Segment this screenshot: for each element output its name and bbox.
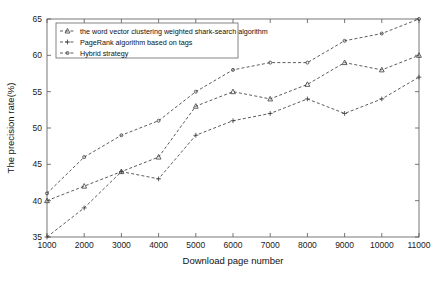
data-point-plus bbox=[417, 75, 422, 80]
x-tick-label: 5000 bbox=[186, 240, 205, 250]
x-tick-label: 11000 bbox=[407, 240, 430, 250]
data-point-dot bbox=[306, 61, 309, 64]
x-tick-label: 3000 bbox=[112, 240, 131, 250]
x-tick-label: 4000 bbox=[149, 240, 168, 250]
series-1 bbox=[45, 53, 422, 203]
x-tick-label: 8000 bbox=[298, 240, 317, 250]
data-point-plus bbox=[379, 97, 384, 102]
data-point-plus bbox=[305, 97, 310, 102]
x-tick-label: 10000 bbox=[370, 240, 394, 250]
data-point-dot bbox=[83, 156, 86, 159]
y-tick-label: 65 bbox=[33, 14, 43, 24]
x-tick-label: 6000 bbox=[224, 240, 243, 250]
data-point-triangle bbox=[305, 82, 310, 87]
legend-label: the word vector clustering weighted shar… bbox=[80, 27, 268, 36]
x-tick-label: 1000 bbox=[38, 240, 57, 250]
data-point-plus bbox=[156, 176, 161, 181]
series-path bbox=[47, 77, 419, 237]
y-tick-label: 50 bbox=[33, 123, 43, 133]
data-point-plus bbox=[193, 133, 198, 138]
chart-legend[interactable]: the word vector clustering weighted shar… bbox=[56, 23, 268, 58]
legend-entry-2[interactable]: PageRank algorithm based on tags bbox=[60, 38, 193, 47]
y-tick-label: 40 bbox=[33, 196, 43, 206]
series-path bbox=[47, 55, 419, 200]
x-tick-label: 7000 bbox=[261, 240, 280, 250]
x-tick-label: 9000 bbox=[335, 240, 354, 250]
x-axis-title: Download page number bbox=[183, 255, 284, 266]
y-axis-title: The precision rate(%) bbox=[5, 83, 16, 174]
plot-area: 3540455055606510002000300040005000600070… bbox=[0, 0, 433, 284]
legend-entry-1[interactable]: the word vector clustering weighted shar… bbox=[60, 27, 268, 36]
data-point-triangle bbox=[231, 89, 236, 94]
data-point-dot bbox=[157, 119, 160, 122]
series-2 bbox=[45, 75, 422, 240]
y-tick-label: 60 bbox=[33, 50, 43, 60]
x-tick-label: 2000 bbox=[75, 240, 94, 250]
y-tick-label: 45 bbox=[33, 159, 43, 169]
data-point-plus bbox=[231, 118, 236, 123]
legend-label: Hybrid strategy bbox=[80, 49, 129, 58]
chart-figure: 3540455055606510002000300040005000600070… bbox=[0, 0, 433, 284]
legend-label: PageRank algorithm based on tags bbox=[80, 38, 193, 47]
y-tick-label: 55 bbox=[33, 87, 43, 97]
chart-svg: 3540455055606510002000300040005000600070… bbox=[0, 0, 433, 284]
data-point-plus bbox=[342, 111, 347, 116]
data-point-plus bbox=[268, 111, 273, 116]
